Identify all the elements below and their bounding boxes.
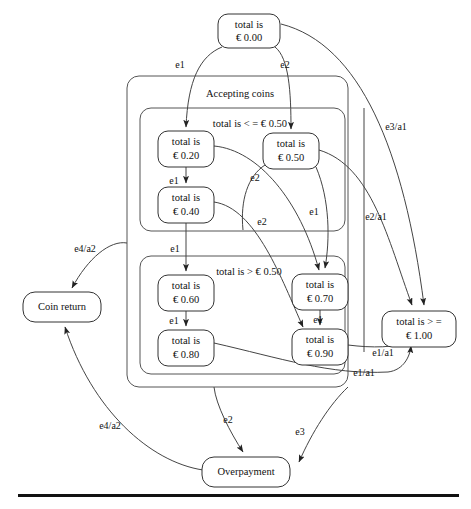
node-total-060[interactable]: total is € 0.60 [158, 275, 214, 311]
node-total-060-line1: total is [172, 280, 200, 291]
node-total-080-line2: € 0.80 [173, 349, 199, 360]
node-total-020-line1: total is [172, 136, 200, 147]
node-total-020-line2: € 0.20 [173, 150, 199, 161]
edge-label-e1-050-out: e1 [309, 206, 318, 217]
node-total-000-line1: total is [235, 19, 263, 30]
edge-label-e1-070-090: e1 [313, 314, 322, 325]
node-total-040-line1: total is [172, 192, 200, 203]
node-total-000-line2: € 0.00 [236, 32, 262, 43]
node-total-050-line1: total is [277, 138, 305, 149]
node-total-000[interactable]: total is € 0.00 [218, 14, 280, 48]
node-total-020[interactable]: total is € 0.20 [158, 131, 214, 167]
node-total-090-line2: € 0.90 [307, 348, 333, 359]
node-total-080[interactable]: total is € 0.80 [158, 330, 214, 366]
edge-label-e1-a1-lower: e1/a1 [353, 367, 375, 378]
bottom-divider [18, 494, 459, 497]
node-total-070-line1: total is [306, 279, 334, 290]
group-less-than-050-label: total is < = € 0.50 [213, 118, 287, 129]
edge-label-e3-overpayment: e3 [295, 426, 304, 437]
edge-050-to-070 [316, 167, 328, 268]
node-total-040[interactable]: total is € 0.40 [158, 187, 214, 223]
edge-000-to-020 [186, 47, 222, 127]
node-total-040-line2: € 0.40 [173, 206, 199, 217]
node-total-070-line2: € 0.70 [307, 293, 333, 304]
edge-label-e1-020-040: e1 [169, 175, 178, 186]
edge-label-e2-050-out: e2 [250, 172, 259, 183]
edge-label-e2-a1: e2/a1 [365, 211, 387, 222]
edge-label-e1-040-060: e1 [170, 243, 179, 254]
node-total-100-line1: total is > = [396, 316, 441, 327]
edge-to-overpayment-e3 [299, 387, 348, 462]
state-diagram: Accepting coins total is < = € 0.50 tota… [0, 0, 471, 509]
edge-label-e1-top: e1 [175, 59, 184, 70]
edge-label-e1-a1-upper: e1/a1 [372, 347, 394, 358]
edge-label-e2-overpayment: e2 [223, 414, 232, 425]
group-accepting-coins-label: Accepting coins [206, 88, 274, 99]
edge-label-e4-a2-upper: e4/a2 [74, 243, 96, 254]
node-coin-return-label: Coin return [38, 301, 87, 312]
edge-label-e1-060-080: e1 [169, 315, 178, 326]
node-total-090[interactable]: total is € 0.90 [292, 329, 348, 365]
node-total-050-line2: € 0.50 [278, 152, 304, 163]
node-total-090-line1: total is [306, 334, 334, 345]
edge-label-e4-a2-lower: e4/a2 [99, 420, 121, 431]
node-total-100-line2: € 1.00 [406, 330, 432, 341]
node-coin-return[interactable]: Coin return [23, 292, 101, 322]
diagram-canvas: Accepting coins total is < = € 0.50 tota… [0, 0, 471, 509]
node-total-070[interactable]: total is € 0.70 [292, 274, 348, 310]
group-greater-than-050-label: total is > € 0.50 [216, 266, 282, 277]
edge-label-e2-top: e2 [280, 59, 289, 70]
node-total-100[interactable]: total is > = € 1.00 [382, 311, 456, 347]
node-total-050[interactable]: total is € 0.50 [263, 133, 319, 169]
node-overpayment-label: Overpayment [217, 466, 274, 477]
node-total-060-line2: € 0.60 [173, 294, 199, 305]
node-overpayment[interactable]: Overpayment [202, 457, 290, 487]
node-total-080-line1: total is [172, 335, 200, 346]
edge-label-e3-a1: e3/a1 [385, 121, 407, 132]
edge-label-e2-040-out: e2 [257, 216, 266, 227]
